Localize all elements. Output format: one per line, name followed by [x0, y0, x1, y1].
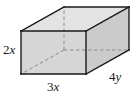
- dimension-label-depth: 4y: [109, 70, 121, 83]
- dimension-label-height: 2x: [3, 43, 15, 56]
- prism-figure: 2x 3x 4y: [0, 0, 138, 98]
- width-variable: x: [54, 79, 60, 94]
- depth-variable: y: [116, 69, 122, 84]
- height-variable: x: [10, 42, 16, 57]
- dimension-label-width: 3x: [47, 80, 59, 93]
- prism-front-face: [21, 31, 86, 74]
